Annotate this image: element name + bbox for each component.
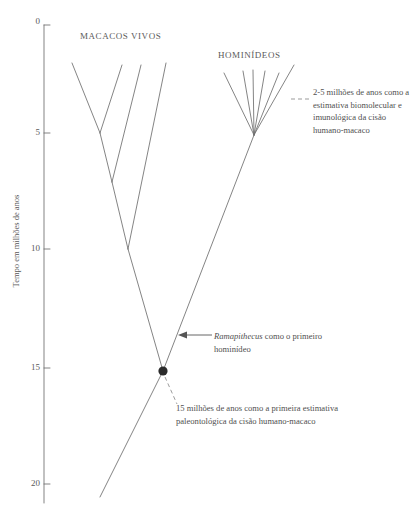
annotation-species-name: Ramapithecus: [214, 331, 263, 341]
branch-monkey-tip-4: [128, 63, 166, 249]
annotation-ramapithecus: Ramapithecus como o primeiro hominídeo: [214, 330, 344, 355]
annotation-biomolecular-estimate: 2-5 milhões de anos como a estimativa bi…: [313, 86, 413, 137]
branch-monkey-stem-a: [128, 249, 163, 371]
leader-arrow-middle: [178, 331, 212, 338]
annotation-paleontological-estimate: 15 milhões de anos como a primeira estim…: [176, 402, 356, 427]
branch-hominid-tip-5: [254, 73, 279, 135]
leader-dashed-bottom: [165, 377, 177, 404]
cladogram-figure: 0 5 10 15 20 Tempo em milhões de anos MA…: [0, 0, 415, 510]
branch-monkey-tip-1: [72, 63, 100, 133]
branch-hominid-tip-2: [243, 71, 254, 135]
branch-monkey-stem-c: [100, 133, 112, 182]
branch-monkey-stem-b: [112, 182, 128, 249]
branch-hominid-tip-1: [224, 73, 254, 135]
branch-hominid-tip-3: [253, 70, 254, 135]
junction-node-15ma: [158, 366, 167, 375]
branch-basal-root: [100, 371, 163, 497]
tree-diagram: [0, 0, 415, 510]
branch-monkey-tip-2: [100, 65, 122, 133]
